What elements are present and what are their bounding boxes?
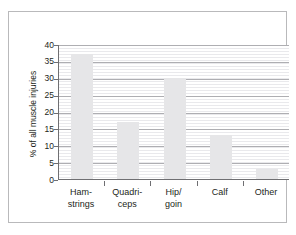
x-axis-tick-marks — [58, 181, 289, 186]
x-tick-label-line: strings — [58, 199, 104, 211]
figure: % of all muscle injuries 051015202530354… — [0, 0, 296, 235]
bar — [117, 122, 139, 179]
x-tick-mark — [150, 181, 151, 186]
bar — [164, 78, 186, 179]
y-tick-label: 5 — [34, 159, 54, 168]
y-tick-label: 35 — [34, 57, 54, 66]
bar — [256, 169, 278, 179]
x-axis-tick-labels: Ham-stringsQuadri-cepsHip/goinCalfOther — [58, 187, 289, 217]
chart-frame: % of all muscle injuries 051015202530354… — [8, 11, 287, 223]
x-tick-mark — [243, 181, 244, 186]
y-tick-label: 10 — [34, 142, 54, 151]
y-tick-label: 30 — [34, 74, 54, 83]
gridline — [59, 45, 289, 46]
y-tick-label: 40 — [34, 41, 54, 50]
plot-area — [58, 45, 289, 180]
y-tick-label: 0 — [34, 176, 54, 185]
x-tick-label: Calf — [197, 187, 243, 199]
x-tick-mark — [104, 181, 105, 186]
y-axis-tick-labels: 0510152025303540 — [31, 45, 54, 180]
x-tick-label-line: Ham- — [58, 187, 104, 199]
x-tick-label: Other — [243, 187, 289, 199]
y-tick-label: 15 — [34, 125, 54, 134]
bar — [71, 54, 93, 179]
gridline — [59, 62, 289, 63]
x-tick-label: Ham-strings — [58, 187, 104, 210]
y-tick-label: 25 — [34, 91, 54, 100]
x-tick-mark — [197, 181, 198, 186]
y-tick-label: 20 — [34, 108, 54, 117]
x-tick-label-line: Calf — [197, 187, 243, 199]
x-tick-label-line: Hip/ — [150, 187, 196, 199]
x-tick-label-line: Other — [243, 187, 289, 199]
x-tick-label-line: goin — [150, 199, 196, 211]
x-tick-label: Hip/goin — [150, 187, 196, 210]
x-tick-label-line: ceps — [104, 199, 150, 211]
x-tick-label-line: Quadri- — [104, 187, 150, 199]
bar — [210, 135, 232, 179]
x-tick-label: Quadri-ceps — [104, 187, 150, 210]
